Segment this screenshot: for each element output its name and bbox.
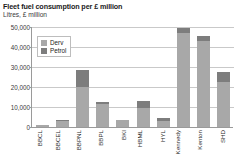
y-axis-tick-label: 20,000: [0, 84, 30, 91]
bar-group: [72, 27, 92, 127]
bar-segment-derv: [76, 87, 89, 127]
legend-item-petrol: Petrol: [41, 47, 66, 54]
y-axis-tick-label: 40,000: [0, 44, 30, 51]
bar-group: [113, 27, 133, 127]
stacked-bar: [137, 27, 150, 127]
legend-label-petrol: Petrol: [50, 47, 66, 54]
x-axis-label-cell: BBCL: [31, 129, 51, 166]
x-axis-tick-label: BBPL: [97, 130, 104, 146]
bar-segment-derv: [56, 121, 69, 127]
bar-segment-derv: [36, 125, 49, 127]
x-axis-tick-label: BBCEL: [54, 130, 61, 150]
stacked-bar: [116, 27, 129, 127]
x-axis-tick-label: BKI: [120, 130, 127, 140]
chart-container: Fleet fuel consumption per £ million Lit…: [0, 0, 237, 166]
bar-segment-derv: [217, 82, 230, 127]
x-axis-label-cell: HYL: [152, 129, 172, 166]
stacked-bar: [76, 27, 89, 127]
legend-swatch-petrol: [41, 48, 47, 54]
bar-segment-petrol: [137, 101, 150, 108]
x-axis-tick-label: HYL: [159, 130, 166, 142]
bar-segment-derv: [177, 33, 190, 127]
bar-group: [214, 27, 234, 127]
legend-swatch-derv: [41, 40, 47, 46]
x-axis-label-cell: Kennedy: [172, 129, 192, 166]
x-axis-label-cell: SHD: [213, 129, 233, 166]
bar-group: [153, 27, 173, 127]
stacked-bar: [217, 27, 230, 127]
chart-legend: Derv Petrol: [37, 36, 71, 57]
x-axis-label-cell: BBPL: [92, 129, 112, 166]
x-axis-label-cell: BBCEL: [51, 129, 71, 166]
bar-group: [93, 27, 113, 127]
chart-title: Fleet fuel consumption per £ million: [3, 2, 122, 11]
x-axis-tick-label: HBML: [137, 130, 144, 147]
x-axis-label-cell: BBPNL: [71, 129, 91, 166]
x-axis-tick-label: SHD: [219, 130, 226, 143]
x-axis-tick-label: BBPNL: [74, 130, 81, 150]
bar-segment-derv: [96, 104, 109, 127]
y-axis-tick-label: 50,000: [0, 24, 30, 31]
y-axis-tick-label: 0: [0, 124, 30, 131]
x-axis-tick-label: BBCL: [36, 130, 43, 146]
x-axis-labels: BBCLBBCELBBPNLBBPLBKIHBMLHYLKennedyKento…: [31, 129, 233, 166]
bar-segment-derv: [157, 121, 170, 127]
bar-segment-derv: [197, 41, 210, 127]
legend-label-derv: Derv: [50, 39, 63, 46]
stacked-bar: [177, 27, 190, 127]
bar-group: [194, 27, 214, 127]
stacked-bar: [157, 27, 170, 127]
y-axis-tick-mark: [30, 127, 32, 128]
x-axis-label-cell: HBML: [132, 129, 152, 166]
x-axis-tick-label: Kennedy: [173, 130, 180, 154]
x-axis-label-cell: BKI: [112, 129, 132, 166]
bar-group: [173, 27, 193, 127]
y-axis-tick-label: 30,000: [0, 64, 30, 71]
legend-item-derv: Derv: [41, 39, 66, 46]
bar-segment-petrol: [217, 72, 230, 82]
stacked-bar: [96, 27, 109, 127]
bar-group: [133, 27, 153, 127]
chart-subtitle: Litres, £ million: [3, 11, 47, 18]
bar-segment-derv: [116, 120, 129, 127]
stacked-bar: [197, 27, 210, 127]
bar-segment-derv: [137, 108, 150, 127]
bar-segment-petrol: [76, 70, 89, 87]
x-axis-label-cell: Kenton: [193, 129, 213, 166]
y-axis-tick-label: 10,000: [0, 104, 30, 111]
x-axis-tick-label: Kenton: [196, 130, 203, 150]
